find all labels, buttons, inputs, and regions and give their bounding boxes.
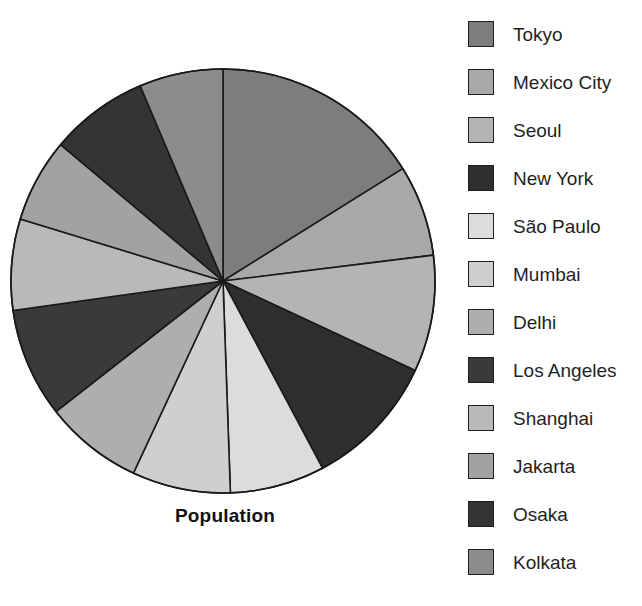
legend-swatch-icon [468,261,494,287]
legend-item-kolkata[interactable]: Kolkata [468,538,642,586]
legend-swatch-icon [468,69,494,95]
legend-item-label: Osaka [513,505,568,524]
legend-item-label: Kolkata [513,553,576,572]
legend-swatch-icon [468,309,494,335]
legend-swatch-icon [468,549,494,575]
legend-item-label: Seoul [513,121,562,140]
legend-item-los-angeles[interactable]: Los Angeles [468,346,642,394]
legend-item-mumbai[interactable]: Mumbai [468,250,642,298]
chart-title: Population [0,505,450,527]
legend-item-são-paulo[interactable]: São Paulo [468,202,642,250]
legend-item-shanghai[interactable]: Shanghai [468,394,642,442]
legend-item-label: São Paulo [513,217,601,236]
legend-swatch-icon [468,21,494,47]
legend-item-new-york[interactable]: New York [468,154,642,202]
legend-item-label: Jakarta [513,457,575,476]
legend-item-tokyo[interactable]: Tokyo [468,10,642,58]
legend: TokyoMexico CitySeoulNew YorkSão PauloMu… [468,10,642,586]
legend-swatch-icon [468,501,494,527]
legend-item-label: Mexico City [513,73,611,92]
legend-item-seoul[interactable]: Seoul [468,106,642,154]
legend-item-delhi[interactable]: Delhi [468,298,642,346]
legend-swatch-icon [468,453,494,479]
legend-item-label: Shanghai [513,409,593,428]
legend-item-label: Delhi [513,313,556,332]
legend-item-jakarta[interactable]: Jakarta [468,442,642,490]
legend-swatch-icon [468,405,494,431]
legend-item-label: Mumbai [513,265,581,284]
legend-swatch-icon [468,165,494,191]
legend-item-mexico-city[interactable]: Mexico City [468,58,642,106]
legend-item-label: Los Angeles [513,361,617,380]
pie-chart-figure: Population TokyoMexico CitySeoulNew York… [0,0,642,606]
legend-swatch-icon [468,357,494,383]
legend-swatch-icon [468,213,494,239]
legend-item-label: Tokyo [513,25,563,44]
legend-item-osaka[interactable]: Osaka [468,490,642,538]
legend-swatch-icon [468,117,494,143]
pie-plot-area: Population [0,0,450,540]
legend-item-label: New York [513,169,593,188]
pie-svg[interactable] [0,0,450,540]
